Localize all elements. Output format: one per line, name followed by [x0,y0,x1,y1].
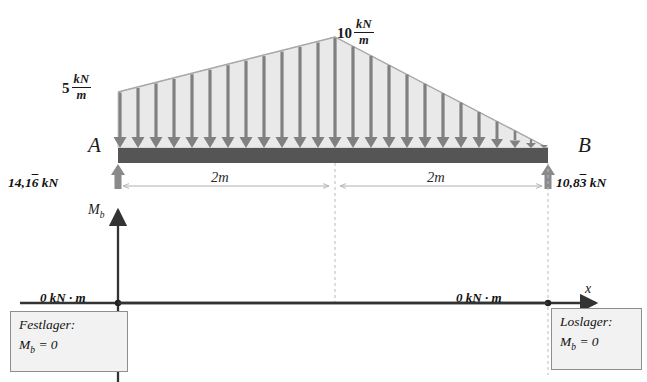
reaction-right-unit: kN [590,175,607,190]
load-left-unit-denominator: m [72,88,92,102]
reaction-label-right: 10,83 kN [556,176,606,190]
note-festlager-eq-lhs: M [19,337,30,352]
reaction-label-left: 14,16 kN [8,176,58,190]
note-festlager-equation: Mb = 0 [19,336,119,357]
load-label-peak: 10kNm [337,19,374,47]
reaction-left-value: 14,1 [8,175,32,190]
support-reaction-arrows [111,164,555,189]
load-peak-unit-numerator: kN [354,18,374,33]
load-label-left: 5kNm [62,74,91,102]
note-box-festlager: Festlager: Mb = 0 [10,311,128,372]
note-loslager-eq-sub: b [571,342,576,352]
node-label-b: B [578,135,591,156]
load-left-magnitude: 5 [62,80,70,96]
moment-value-left: 0 kN · m [40,291,86,304]
dimension-label-right: 2m [427,170,445,185]
load-left-unit: kNm [72,73,92,101]
note-festlager-title: Festlager: [19,317,119,334]
axis-label-x: x [585,282,591,296]
load-left-unit-numerator: kN [72,73,92,88]
load-peak-unit: kNm [354,18,374,46]
beam-diagram-canvas: A B 5kNm 10kNm 2m 2m 14,16 kN 10,83 kN M… [0,0,647,382]
note-loslager-equation: Mb = 0 [560,333,633,354]
axis-label-moment-sub: b [100,210,105,220]
note-festlager-eq-rhs: = 0 [38,337,57,352]
note-festlager-eq-sub: b [30,345,35,355]
note-loslager-title: Loslager: [560,314,633,331]
moment-value-right: 0 kN · m [456,291,502,304]
reaction-left-repeating: 6 [32,175,39,190]
axis-label-moment: Mb [88,203,104,220]
load-peak-unit-denominator: m [354,33,374,47]
node-label-a: A [88,135,101,156]
reaction-left-unit: kN [42,175,59,190]
axis-label-moment-main: M [88,202,100,217]
reaction-right-value: 10,8 [556,175,580,190]
note-loslager-eq-rhs: = 0 [579,334,598,349]
dimension-label-left: 2m [211,170,229,185]
note-loslager-eq-lhs: M [560,334,571,349]
beam [118,148,548,163]
load-peak-magnitude: 10 [337,25,352,41]
distributed-load-area [118,37,548,148]
dashed-guides [335,163,548,375]
reaction-right-repeating: 3 [580,175,587,190]
note-box-loslager: Loslager: Mb = 0 [551,308,642,370]
